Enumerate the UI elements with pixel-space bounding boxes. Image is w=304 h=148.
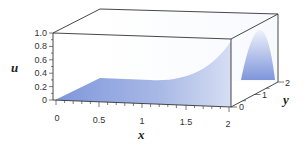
z-tick-0.6: 0.6 xyxy=(34,55,47,65)
y-axis: 0 1 2 y xyxy=(231,78,290,112)
surface-plot: 0 0.2 0.4 0.6 0.8 1.0 u 0 0.5 1 1.5 2 xyxy=(0,0,304,148)
y-tick-0: 0 xyxy=(239,102,244,112)
y-tick-2: 2 xyxy=(285,78,290,88)
x-tick-1: 1 xyxy=(139,116,144,126)
z-tick-0.4: 0.4 xyxy=(34,68,47,78)
x-axis-label: x xyxy=(137,127,145,142)
z-axis: 0 0.2 0.4 0.6 0.8 1.0 u xyxy=(11,28,53,105)
x-tick-1.5: 1.5 xyxy=(180,117,193,127)
z-axis-label: u xyxy=(11,60,18,75)
z-tick-1.0: 1.0 xyxy=(34,28,47,38)
x-tick-0: 0 xyxy=(54,113,59,123)
x-tick-0.5: 0.5 xyxy=(93,115,106,125)
x-tick-2: 2 xyxy=(225,119,230,129)
y-tick-1: 1 xyxy=(262,90,267,100)
z-tick-0.2: 0.2 xyxy=(34,82,47,92)
y-axis-label: y xyxy=(281,92,289,107)
z-tick-0.8: 0.8 xyxy=(34,41,47,51)
z-tick-0: 0 xyxy=(42,95,47,105)
